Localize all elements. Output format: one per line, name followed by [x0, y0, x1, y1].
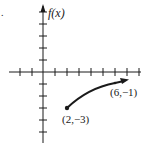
function-graph: .: [0, 0, 141, 143]
y-axis: [39, 4, 47, 143]
mid-point-label: (6,−1): [110, 86, 138, 99]
y-axis-arrow-icon: [41, 4, 46, 12]
mid-point-dot: [114, 82, 117, 85]
figure-mark: .: [1, 7, 4, 18]
x-axis: [9, 68, 141, 76]
start-point-dot: [65, 106, 69, 110]
curve-arrow-icon: [120, 78, 129, 84]
y-axis-label: f(x): [48, 6, 65, 20]
start-point-label: (2,−3): [62, 113, 90, 126]
